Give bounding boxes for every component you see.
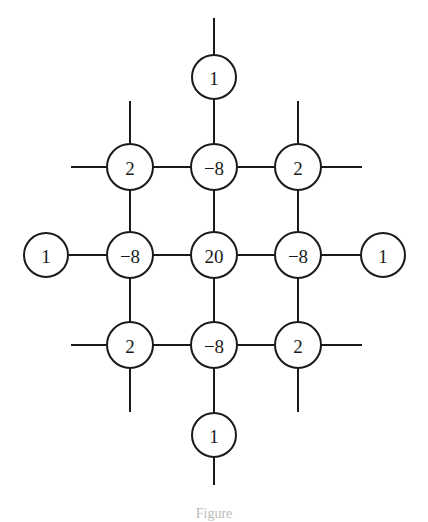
svg-text:−8: −8: [204, 158, 224, 179]
node-bottom: 1: [192, 413, 236, 457]
node-lower-middle: −8: [191, 322, 237, 368]
svg-text:2: 2: [293, 158, 303, 179]
node-top: 1: [192, 55, 236, 99]
svg-text:2: 2: [125, 336, 135, 357]
svg-text:−8: −8: [204, 336, 224, 357]
svg-text:1: 1: [41, 246, 51, 267]
node-left: 1: [24, 233, 68, 277]
svg-text:1: 1: [378, 246, 388, 267]
node-center: 20: [191, 232, 237, 278]
node-upper-right: 2: [275, 144, 321, 190]
node-label: 1: [209, 68, 219, 89]
svg-text:2: 2: [293, 336, 303, 357]
svg-text:20: 20: [205, 246, 224, 267]
node-upper-left: 2: [107, 144, 153, 190]
node-middle-right: −8: [275, 232, 321, 278]
node-right: 1: [361, 233, 405, 277]
node-middle-left: −8: [107, 232, 153, 278]
svg-text:1: 1: [209, 426, 219, 447]
svg-text:−8: −8: [288, 246, 308, 267]
node-lower-left: 2: [107, 322, 153, 368]
figure-caption: Figure: [0, 506, 428, 522]
node-upper-middle: −8: [191, 144, 237, 190]
svg-text:−8: −8: [120, 246, 140, 267]
svg-text:2: 2: [125, 158, 135, 179]
node-lower-right: 2: [275, 322, 321, 368]
